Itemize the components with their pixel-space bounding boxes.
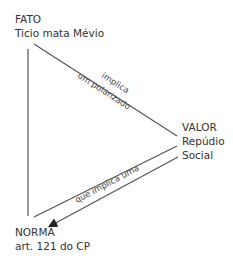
norma-subtitle: art. 121 do CP	[15, 239, 90, 253]
node-fato: FATO Ticio mata Mévio	[15, 12, 104, 40]
arrow-valor-norma	[50, 157, 178, 226]
edge-label-que-implica-uma: que implica uma	[73, 163, 140, 205]
fato-subtitle: Ticio mata Mévio	[15, 26, 104, 40]
norma-title: NORMA	[15, 225, 90, 239]
node-valor: VALOR Repúdio Social	[182, 120, 225, 162]
node-norma: NORMA art. 121 do CP	[15, 225, 90, 253]
fato-title: FATO	[15, 12, 104, 26]
valor-title: VALOR	[182, 120, 225, 134]
valor-line2: Repúdio	[182, 134, 225, 148]
valor-line3: Social	[182, 148, 225, 162]
